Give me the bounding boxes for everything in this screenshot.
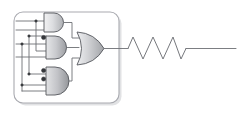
junction-dot-icon <box>35 20 38 23</box>
schematic-canvas <box>0 0 248 113</box>
junction-dot-icon <box>28 73 31 76</box>
and-gate-icon <box>44 13 64 32</box>
junction-dot-icon <box>28 35 31 38</box>
junction-dot-icon <box>21 43 24 46</box>
and-gate-icon <box>46 67 69 95</box>
junction-dot-icon <box>21 84 24 87</box>
resistor-icon <box>128 37 186 59</box>
circuit-figure <box>0 0 248 113</box>
inversion-bubble-icon <box>42 77 46 81</box>
pld-block <box>14 12 122 106</box>
inversion-bubble-icon <box>42 68 46 72</box>
and-gate-icon <box>46 36 67 59</box>
resistor-zigzag <box>128 37 186 59</box>
inversion-bubble-icon <box>42 35 46 39</box>
